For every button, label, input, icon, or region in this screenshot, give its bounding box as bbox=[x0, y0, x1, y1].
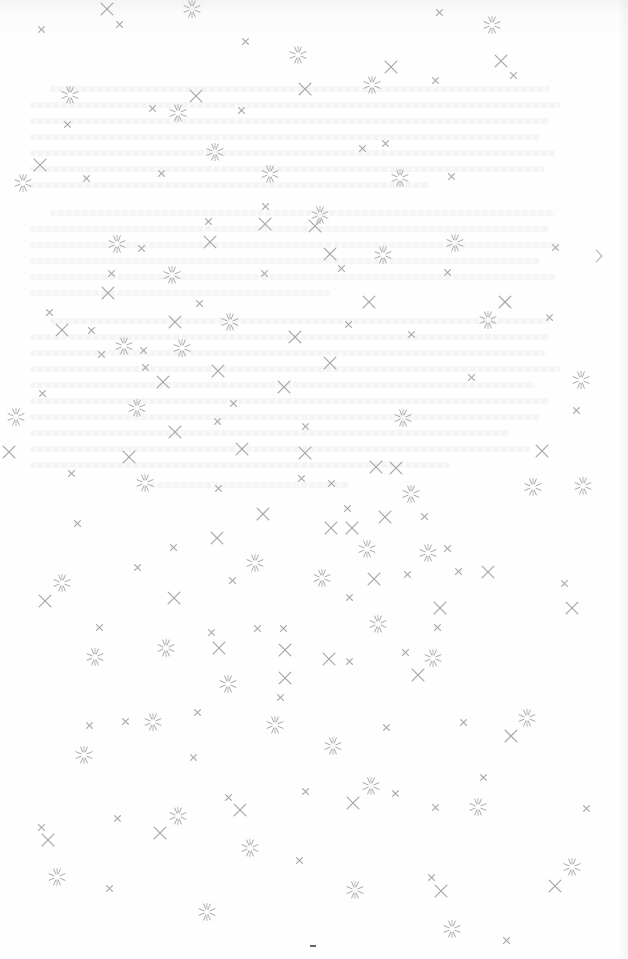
cross-icon bbox=[210, 531, 224, 545]
sparkle-icon bbox=[313, 569, 331, 587]
sparkle-icon bbox=[7, 408, 25, 426]
cross-icon bbox=[116, 21, 123, 28]
cross-icon bbox=[194, 709, 201, 716]
cross-icon bbox=[434, 624, 441, 631]
cross-icon bbox=[278, 671, 292, 685]
cross-icon bbox=[455, 568, 462, 575]
cross-icon bbox=[434, 884, 448, 898]
sparkle-icon bbox=[572, 371, 590, 389]
cross-icon bbox=[378, 510, 392, 524]
cross-icon bbox=[302, 788, 309, 795]
bottom-center-mark bbox=[310, 945, 316, 947]
cross-icon bbox=[411, 668, 425, 682]
sparkle-icon bbox=[219, 675, 237, 693]
cross-icon bbox=[296, 857, 303, 864]
cross-icon bbox=[367, 572, 381, 586]
sparkle-icon bbox=[75, 746, 93, 764]
cross-icon bbox=[254, 625, 261, 632]
cross-icon bbox=[402, 649, 409, 656]
sparkle-icon bbox=[266, 716, 284, 734]
cross-icon bbox=[404, 571, 411, 578]
cross-icon bbox=[2, 445, 16, 459]
cross-icon bbox=[233, 803, 247, 817]
sparkle-icon bbox=[483, 16, 501, 34]
sparkle-icon bbox=[246, 554, 264, 572]
sparkle-icon bbox=[443, 920, 461, 938]
cross-icon bbox=[41, 833, 55, 847]
cross-icon bbox=[481, 565, 495, 579]
cross-icon bbox=[38, 824, 45, 831]
sparkle-icon bbox=[346, 881, 364, 899]
sparkle-icon bbox=[86, 648, 104, 666]
cross-icon bbox=[421, 513, 428, 520]
cross-icon bbox=[345, 521, 359, 535]
cross-icon bbox=[432, 77, 439, 84]
sparkle-icon bbox=[469, 798, 487, 816]
cross-icon bbox=[153, 826, 167, 840]
cross-icon bbox=[96, 624, 103, 631]
cross-icon bbox=[548, 879, 562, 893]
sparkle-icon bbox=[574, 477, 592, 495]
cross-icon bbox=[277, 694, 284, 701]
cross-icon bbox=[346, 796, 360, 810]
sparkle-icon bbox=[289, 46, 307, 64]
cross-icon bbox=[242, 38, 249, 45]
cross-icon bbox=[444, 545, 451, 552]
scanned-page bbox=[0, 0, 628, 959]
cross-icon bbox=[573, 407, 580, 414]
sparkle-icon bbox=[48, 868, 66, 886]
bleed-through-text-block bbox=[30, 86, 570, 506]
sparkle-icon bbox=[518, 709, 536, 727]
cross-icon bbox=[494, 54, 508, 68]
cross-icon bbox=[480, 774, 487, 781]
cross-icon bbox=[278, 643, 292, 657]
sparkle-icon bbox=[241, 839, 259, 857]
cross-icon bbox=[433, 601, 447, 615]
page-edge-shadow bbox=[618, 0, 628, 959]
cross-icon bbox=[86, 722, 93, 729]
cross-icon bbox=[583, 805, 590, 812]
cross-icon bbox=[134, 564, 141, 571]
sparkle-icon bbox=[53, 574, 71, 592]
cross-icon bbox=[510, 72, 517, 79]
cross-icon bbox=[256, 507, 270, 521]
cross-icon bbox=[503, 937, 510, 944]
sparkle-icon bbox=[324, 737, 342, 755]
cross-icon bbox=[170, 544, 177, 551]
cross-icon bbox=[460, 719, 467, 726]
cross-icon bbox=[384, 60, 398, 74]
cross-icon bbox=[504, 729, 518, 743]
cross-icon bbox=[74, 520, 81, 527]
chevron-mark-icon bbox=[594, 248, 604, 268]
sparkle-icon bbox=[358, 540, 376, 558]
sparkle-icon bbox=[424, 649, 442, 667]
cross-icon bbox=[280, 625, 287, 632]
sparkle-icon bbox=[183, 0, 201, 18]
cross-icon bbox=[428, 874, 435, 881]
cross-icon bbox=[392, 790, 399, 797]
cross-icon bbox=[225, 794, 232, 801]
cross-icon bbox=[346, 594, 353, 601]
cross-icon bbox=[324, 521, 338, 535]
cross-icon bbox=[229, 577, 236, 584]
cross-icon bbox=[114, 815, 121, 822]
cross-icon bbox=[212, 641, 226, 655]
sparkle-icon bbox=[169, 807, 187, 825]
sparkle-icon bbox=[144, 713, 162, 731]
cross-icon bbox=[106, 885, 113, 892]
cross-icon bbox=[167, 591, 181, 605]
cross-icon bbox=[561, 580, 568, 587]
sparkle-icon bbox=[362, 777, 380, 795]
cross-icon bbox=[208, 629, 215, 636]
sparkle-icon bbox=[419, 544, 437, 562]
cross-icon bbox=[436, 9, 443, 16]
sparkle-icon bbox=[157, 639, 175, 657]
sparkle-icon bbox=[198, 903, 216, 921]
sparkle-icon bbox=[563, 858, 581, 876]
sparkle-icon bbox=[369, 615, 387, 633]
cross-icon bbox=[346, 658, 353, 665]
cross-icon bbox=[100, 2, 114, 16]
cross-icon bbox=[122, 718, 129, 725]
cross-icon bbox=[38, 26, 45, 33]
cross-icon bbox=[383, 724, 390, 731]
